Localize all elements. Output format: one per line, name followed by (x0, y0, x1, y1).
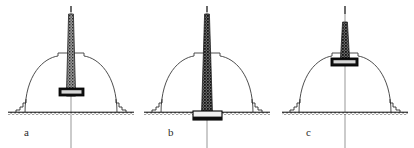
block-highlight-c (334, 60, 356, 63)
panel-label-a: a (24, 126, 29, 138)
block-shadow-b (193, 117, 222, 120)
panel-label-c: c (306, 126, 311, 138)
block-highlight-a (62, 90, 82, 93)
panel-label-b: b (168, 126, 174, 138)
figure-three-dome-variants: a b c (0, 0, 414, 148)
